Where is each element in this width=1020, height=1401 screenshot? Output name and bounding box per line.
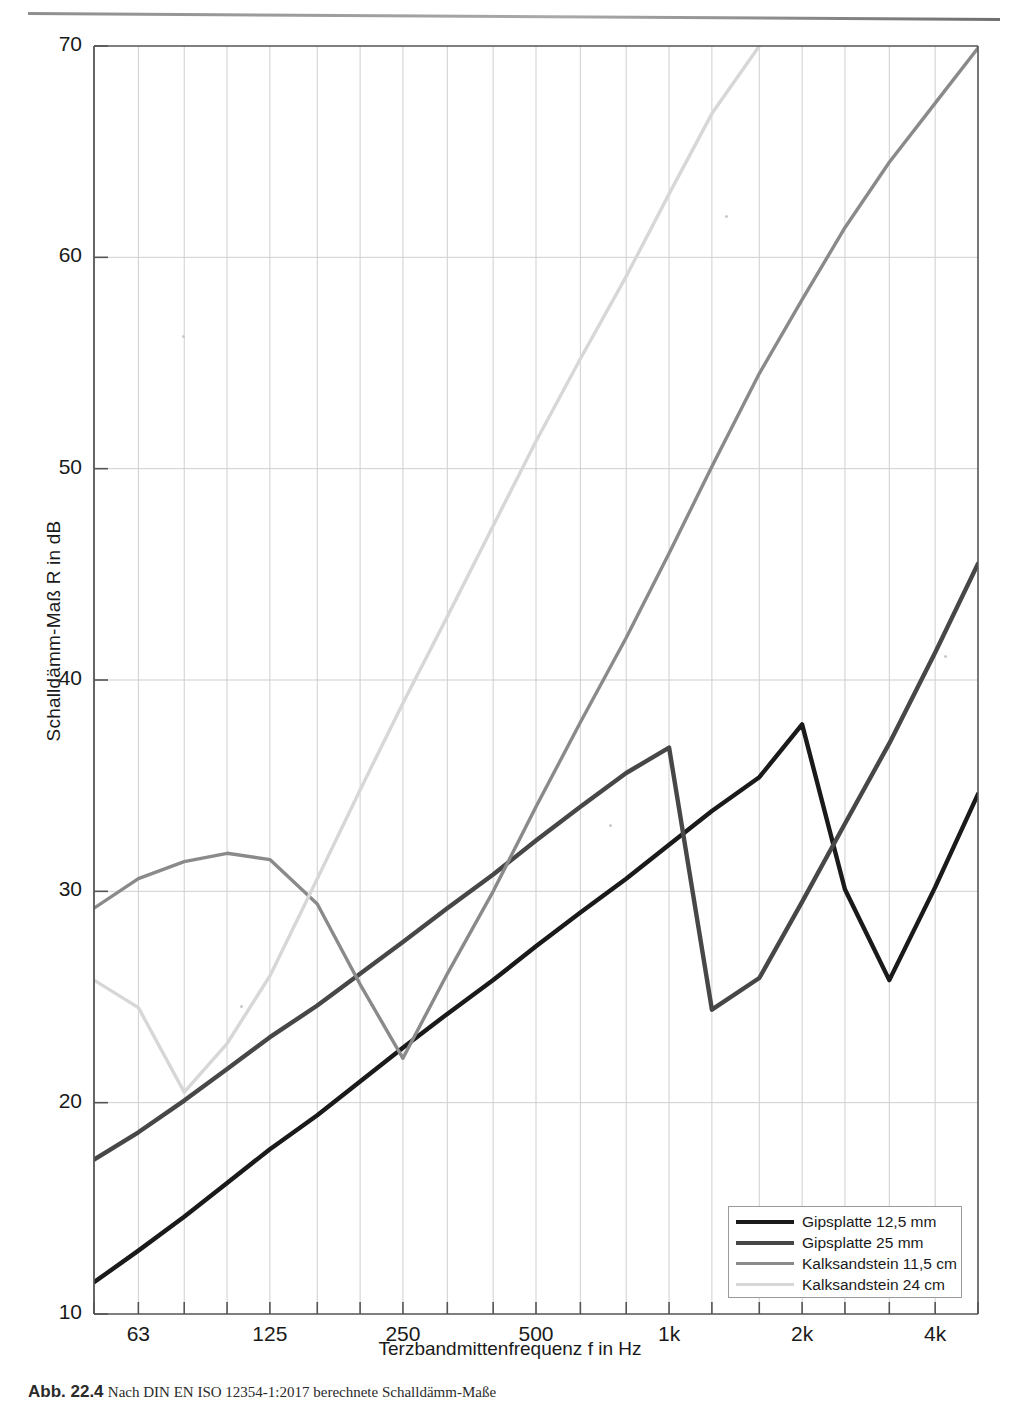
x-axis-title: Terzbandmittenfrequenz f in Hz (0, 1338, 1020, 1360)
y-tick-label: 10 (22, 1300, 82, 1324)
legend-line-swatch (736, 1241, 794, 1245)
chart-legend[interactable]: Gipsplatte 12,5 mmGipsplatte 25 mmKalksa… (728, 1206, 962, 1298)
x-tick-marks (94, 1302, 978, 1314)
scan-speck (240, 1005, 243, 1008)
legend-line-swatch (736, 1283, 794, 1286)
y-tick-label: 60 (22, 243, 82, 267)
legend-item-label: Gipsplatte 12,5 mm (802, 1214, 936, 1230)
y-tick-label: 20 (22, 1089, 82, 1113)
scan-speck (725, 215, 728, 218)
legend-line-swatch (736, 1220, 794, 1224)
legend-item[interactable]: Kalksandstein 11,5 cm (729, 1253, 961, 1274)
legend-item-label: Kalksandstein 24 cm (802, 1277, 945, 1293)
legend-item[interactable]: Gipsplatte 12,5 mm (729, 1211, 961, 1232)
legend-item[interactable]: Gipsplatte 25 mm (729, 1232, 961, 1253)
legend-line-swatch (736, 1262, 794, 1265)
y-tick-label: 30 (22, 877, 82, 901)
figure-caption: Abb. 22.4 Nach DIN EN ISO 12354-1:2017 b… (28, 1382, 988, 1401)
figure-caption-label: Abb. 22.4 (28, 1382, 104, 1401)
chart-figure: 70605040302010 631252505001k2k4k Schalld… (0, 0, 1020, 1401)
scan-speck (609, 824, 612, 827)
y-tick-label: 70 (22, 32, 82, 56)
legend-item[interactable]: Kalksandstein 24 cm (729, 1274, 961, 1295)
legend-item-label: Kalksandstein 11,5 cm (802, 1256, 957, 1272)
scan-speck (182, 335, 185, 338)
y-tick-label: 50 (22, 455, 82, 479)
figure-page: 70605040302010 631252505001k2k4k Schalld… (0, 0, 1020, 1401)
y-axis-title: Schalldämm-Maß R in dB (43, 481, 65, 781)
figure-caption-text: Nach DIN EN ISO 12354-1:2017 berechnete … (108, 1384, 496, 1400)
legend-item-label: Gipsplatte 25 mm (802, 1235, 923, 1251)
scan-speck (944, 655, 947, 658)
chart-plot-area (0, 0, 1020, 1401)
